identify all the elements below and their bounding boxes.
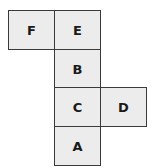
face-f: F: [8, 10, 55, 50]
face-label: D: [118, 100, 129, 115]
face-d: D: [100, 87, 147, 127]
face-b: B: [54, 49, 101, 89]
face-a: A: [54, 126, 101, 166]
face-e: E: [54, 10, 101, 50]
face-label: E: [73, 23, 82, 38]
face-label: A: [72, 139, 82, 154]
face-label: F: [27, 23, 36, 38]
face-label: B: [73, 62, 83, 77]
face-label: C: [73, 100, 83, 115]
face-c: C: [54, 87, 101, 127]
